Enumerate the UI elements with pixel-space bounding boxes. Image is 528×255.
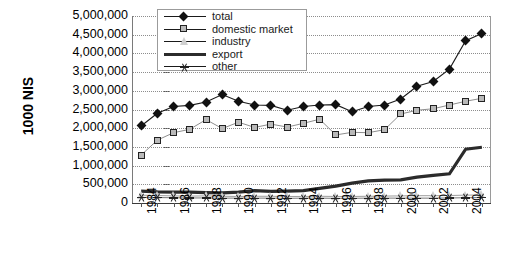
x-tick-label: 1990 <box>242 168 256 214</box>
x-tick-label: 1998 <box>372 168 386 214</box>
legend-item-other[interactable]: other <box>158 61 306 73</box>
legend-label: domestic market <box>212 23 293 35</box>
y-tick-label: 0 <box>42 196 128 208</box>
x-tick-label: 2004 <box>470 168 484 214</box>
legend-marker-star-icon <box>180 63 189 72</box>
legend-item-domestic-market[interactable]: domestic market <box>158 24 306 36</box>
data-point-domestic-market <box>235 119 242 126</box>
legend-item-industry[interactable]: industry <box>158 36 306 48</box>
y-axis-tick-labels: 5,000,0004,500,0004,000,0003,500,0003,00… <box>36 0 128 210</box>
x-tick-label: 1996 <box>340 168 354 214</box>
x-tick-label: 2002 <box>437 168 451 214</box>
legend-label: industry <box>212 35 251 47</box>
y-tick-label: 5,000,000 <box>42 9 128 21</box>
legend-label: other <box>212 60 237 72</box>
data-point-domestic-market <box>397 110 404 117</box>
y-tick-label: 3,000,000 <box>42 84 128 96</box>
y-tick-label: 1,500,000 <box>42 140 128 152</box>
legend-marker-triangle-icon <box>180 37 188 45</box>
data-point-domestic-market <box>316 116 323 123</box>
data-point-other <box>461 193 470 202</box>
y-tick-label: 4,500,000 <box>42 28 128 40</box>
data-point-domestic-market <box>332 131 339 138</box>
plot-right-border <box>490 16 491 204</box>
data-point-domestic-market <box>462 98 469 105</box>
y-tick-label: 500,000 <box>42 177 128 189</box>
data-point-domestic-market <box>413 107 420 114</box>
data-point-domestic-market <box>381 126 388 133</box>
chart-legend: totaldomestic marketindustryexportother <box>157 9 307 71</box>
chart-container: 1000 NIS 5,000,0004,500,0004,000,0003,50… <box>0 0 528 255</box>
x-tick-label: 2000 <box>405 168 419 214</box>
data-point-domestic-market <box>170 129 177 136</box>
x-tick-label: 1988 <box>210 168 224 214</box>
data-point-domestic-market <box>446 102 453 109</box>
y-tick-label: 4,000,000 <box>42 46 128 58</box>
legend-item-export[interactable]: export <box>158 49 306 61</box>
legend-label: export <box>212 48 243 60</box>
data-point-domestic-market <box>138 152 145 159</box>
data-point-other <box>169 193 178 202</box>
y-tick-label: 2,500,000 <box>42 103 128 115</box>
data-point-domestic-market <box>154 137 161 144</box>
data-point-other <box>396 194 405 203</box>
data-point-domestic-market <box>186 126 193 133</box>
data-point-domestic-market <box>267 121 274 128</box>
legend-item-total[interactable]: total <box>158 11 306 23</box>
legend-marker-diamond-icon <box>179 11 189 21</box>
y-tick-label: 2,000,000 <box>42 121 128 133</box>
data-point-domestic-market <box>251 124 258 131</box>
legend-line-swatch <box>164 53 206 56</box>
legend-marker-square-icon <box>180 25 187 32</box>
x-tick-label: 1992 <box>275 168 289 214</box>
data-point-domestic-market <box>203 116 210 123</box>
data-point-domestic-market <box>284 124 291 131</box>
data-point-other <box>331 194 340 203</box>
data-point-domestic-market <box>349 129 356 136</box>
legend-label: total <box>212 10 233 22</box>
data-point-domestic-market <box>300 120 307 127</box>
data-point-domestic-market <box>430 105 437 112</box>
x-tick-label: 1994 <box>307 168 321 214</box>
x-tick-label: 1986 <box>178 168 192 214</box>
data-point-domestic-market <box>478 95 485 102</box>
x-tick-label: 1984 <box>145 168 159 214</box>
y-tick-label: 1,000,000 <box>42 159 128 171</box>
data-point-domestic-market <box>219 125 226 132</box>
x-axis-tick-labels: 1984198619881990199219941996199820002002… <box>133 206 491 254</box>
y-tick-label: 3,500,000 <box>42 65 128 77</box>
data-point-domestic-market <box>365 129 372 136</box>
